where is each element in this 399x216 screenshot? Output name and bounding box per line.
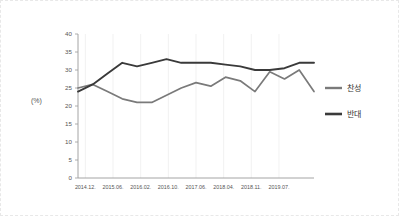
y-axis-unit-label: (%): [31, 97, 42, 105]
y-tick-label: 30: [65, 66, 72, 73]
vertical-gridlines: [85, 34, 279, 178]
y-axis: 4035302520151050: [65, 30, 78, 181]
y-tick-label: 15: [65, 120, 72, 127]
y-tick-label: 5: [69, 156, 73, 163]
x-tick-label: 2019.07.: [268, 184, 289, 190]
y-tick-label: 10: [65, 138, 72, 145]
x-tick-label: 2016.02.: [130, 184, 151, 190]
chart-legend: 찬성반대: [325, 83, 361, 119]
x-tick-label: 2016.10.: [158, 184, 179, 190]
x-tick-label: 2017.06.: [186, 184, 207, 190]
x-tick-label: 2015.06.: [103, 184, 124, 190]
line-chart: 4035302520151050 2014.12.2015.06.2016.02…: [1, 1, 399, 216]
y-tick-label: 20: [65, 102, 72, 109]
chart-figure: 4035302520151050 2014.12.2015.06.2016.02…: [0, 0, 399, 216]
x-axis: 2014.12.2015.06.2016.02.2016.10.2017.06.…: [75, 178, 314, 190]
y-tick-label: 35: [65, 48, 72, 55]
y-tick-label: 0: [69, 174, 73, 181]
x-tick-label: 2018.04.: [213, 184, 234, 190]
legend-label-oppose: 반대: [347, 110, 361, 119]
legend-label-agree: 찬성: [347, 83, 361, 93]
x-tick-label: 2018.11.: [241, 184, 262, 190]
y-tick-label: 25: [65, 84, 72, 91]
y-tick-label: 40: [65, 30, 72, 37]
x-tick-label: 2014.12.: [75, 184, 96, 190]
